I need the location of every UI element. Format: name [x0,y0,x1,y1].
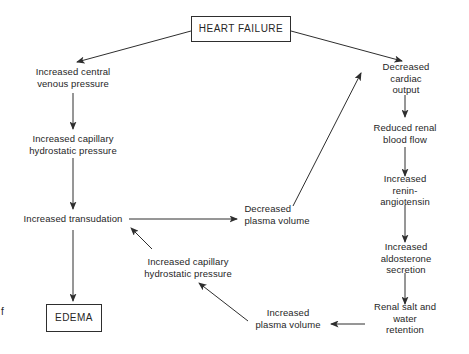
flowchart-canvas: f HEART FAILUREIncreased central venous … [0,0,469,354]
node-edema: EDEMA [46,304,102,332]
node-decreased-cardiac-output: Decreased cardiac output [375,61,438,96]
node-decreased-plasma-volume: Decreased plasma volume [244,203,309,226]
edge-increased-capillary-hydrostatic-pressure-lower-to-increased-transudation [131,228,152,249]
node-increased-capillary-hydrostatic-pressure-lower: Increased capillary hydrostatic pressure [144,256,232,279]
node-reduced-renal-blood-flow: Reduced renal blood flow [373,122,436,145]
edge-heart-failure-to-increased-central-venous-pressure [77,31,191,62]
node-increased-central-venous-pressure: Increased central venous pressure [36,66,111,89]
edge-decreased-plasma-volume-to-decreased-cardiac-output [293,73,361,206]
node-increased-transudation: Increased transudation [24,213,123,225]
node-heart-failure: HEART FAILURE [191,16,291,42]
node-increased-renin-angiotensin: Increased renin- angiotensin [373,173,437,208]
edge-group [73,31,405,324]
node-increased-aldosterone-secretion: Increased aldosterone secretion [375,241,438,276]
caption-fragment: f [1,306,4,318]
node-increased-plasma-volume: Increased plasma volume [255,307,320,330]
node-increased-capillary-hydrostatic-pressure-upper: Increased capillary hydrostatic pressure [29,133,117,156]
edge-increased-plasma-volume-to-increased-capillary-hydrostatic-pressure-lower [199,283,248,321]
edge-heart-failure-to-decreased-cardiac-output [291,31,402,61]
node-renal-salt-and-water-retention: Renal salt and water retention [373,301,437,336]
